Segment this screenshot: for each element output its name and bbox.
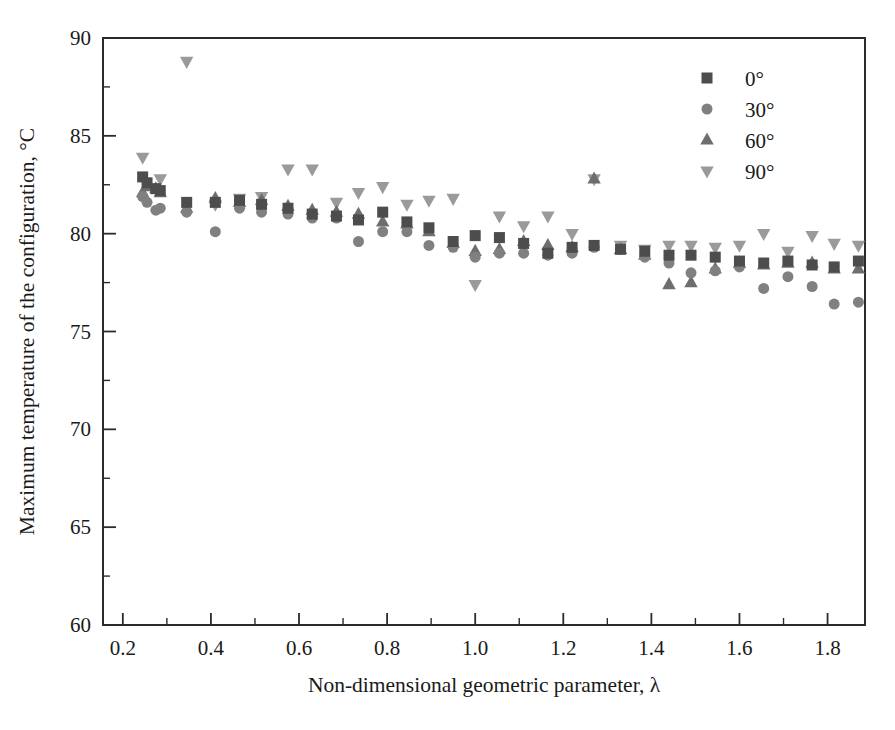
data-point xyxy=(805,231,818,243)
chart-legend: 0°30°60°90° xyxy=(700,67,774,184)
data-point xyxy=(853,297,864,308)
data-point xyxy=(852,241,865,253)
x-tick-label: 0.8 xyxy=(374,636,400,660)
data-point xyxy=(401,216,412,227)
x-tick-label: 0.6 xyxy=(286,636,312,660)
y-tick-label: 85 xyxy=(70,124,91,148)
data-point xyxy=(782,271,793,282)
scatter-plot: 0.20.40.60.81.01.21.41.61.86065707580859… xyxy=(0,0,895,730)
data-point xyxy=(470,252,481,263)
x-tick-label: 1.8 xyxy=(814,636,840,660)
data-point xyxy=(710,265,721,276)
data-point xyxy=(589,240,600,251)
legend-label: 90° xyxy=(745,160,774,184)
data-point xyxy=(758,283,769,294)
data-point xyxy=(142,197,153,208)
data-point xyxy=(155,185,166,196)
data-point xyxy=(734,256,745,267)
legend-marker-3 xyxy=(700,166,713,178)
data-point xyxy=(377,207,388,218)
x-tick-label: 1.4 xyxy=(638,636,665,660)
data-point xyxy=(663,250,674,261)
x-axis-title: Non-dimensional geometric parameter, λ xyxy=(308,673,661,697)
data-point xyxy=(377,226,388,237)
data-point xyxy=(494,232,505,243)
series-30 xyxy=(137,191,864,310)
data-point xyxy=(210,197,221,208)
data-point xyxy=(807,259,818,270)
data-point xyxy=(686,250,697,261)
data-point xyxy=(282,203,293,214)
data-point xyxy=(470,230,481,241)
x-tick-label: 0.4 xyxy=(198,636,225,660)
y-tick-label: 80 xyxy=(70,222,91,246)
data-point xyxy=(180,57,193,69)
data-point xyxy=(331,211,342,222)
y-tick-label: 90 xyxy=(70,26,91,50)
data-point xyxy=(807,281,818,292)
data-point xyxy=(353,214,364,225)
data-point xyxy=(758,258,769,269)
legend-label: 60° xyxy=(745,129,774,153)
x-tick-label: 1.0 xyxy=(462,636,488,660)
data-point xyxy=(567,242,578,253)
x-tick-label: 0.2 xyxy=(110,636,136,660)
data-point xyxy=(155,203,166,214)
legend-marker-0 xyxy=(702,73,713,84)
data-point xyxy=(376,182,389,194)
data-point xyxy=(493,211,506,223)
data-point xyxy=(281,164,294,176)
data-point xyxy=(639,246,650,257)
data-point xyxy=(181,197,192,208)
legend-label: 30° xyxy=(745,98,774,122)
data-point xyxy=(757,229,770,241)
data-point xyxy=(306,164,319,176)
data-point xyxy=(401,226,412,237)
data-point xyxy=(686,267,697,278)
data-point xyxy=(733,241,746,253)
data-point xyxy=(615,244,626,255)
data-point xyxy=(853,256,864,267)
x-tick-label: 1.2 xyxy=(550,636,576,660)
legend-marker-2 xyxy=(700,133,713,145)
plot-frame xyxy=(103,38,865,625)
data-point xyxy=(400,200,413,212)
axis-labels-layer: 0.20.40.60.81.01.21.41.61.86065707580859… xyxy=(15,26,841,697)
y-tick-label: 70 xyxy=(70,417,91,441)
data-point xyxy=(423,240,434,251)
data-point xyxy=(827,239,840,251)
legend-marker-1 xyxy=(702,104,713,115)
data-point xyxy=(662,277,675,289)
y-axis-title: Maximum temperature of the configuration… xyxy=(15,128,39,535)
data-point xyxy=(468,280,481,292)
data-point xyxy=(422,196,435,208)
data-point xyxy=(518,238,529,249)
data-point xyxy=(710,252,721,263)
data-point xyxy=(307,209,318,220)
chart-figure: 0.20.40.60.81.01.21.41.61.86065707580859… xyxy=(0,0,895,730)
data-point xyxy=(517,221,530,233)
axes-layer xyxy=(103,38,865,625)
data-point xyxy=(541,211,554,223)
data-point xyxy=(565,229,578,241)
data-point xyxy=(256,199,267,210)
data-point xyxy=(423,222,434,233)
y-tick-label: 65 xyxy=(70,515,91,539)
data-point xyxy=(829,261,840,272)
data-point xyxy=(352,188,365,200)
data-point xyxy=(542,248,553,259)
y-tick-label: 60 xyxy=(70,613,91,637)
data-point xyxy=(181,207,192,218)
series-60 xyxy=(136,171,865,289)
data-point xyxy=(782,256,793,267)
data-point xyxy=(234,195,245,206)
legend-label: 0° xyxy=(745,67,764,91)
data-point xyxy=(829,299,840,310)
data-point xyxy=(210,226,221,237)
data-point xyxy=(448,236,459,247)
data-point xyxy=(446,194,459,206)
data-point xyxy=(494,248,505,259)
data-point xyxy=(518,248,529,259)
data-point xyxy=(353,236,364,247)
y-tick-label: 75 xyxy=(70,320,91,344)
